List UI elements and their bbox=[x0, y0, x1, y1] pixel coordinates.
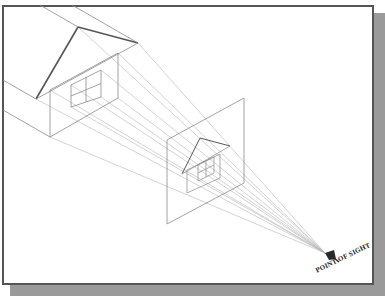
sight-ray bbox=[78, 27, 325, 253]
sight-ray bbox=[50, 90, 325, 253]
sight-ray bbox=[36, 99, 325, 253]
house-side-edge bbox=[3, 80, 36, 99]
roof-left-edge bbox=[36, 27, 78, 99]
sight-ray bbox=[101, 70, 325, 253]
house-side-edge bbox=[3, 110, 50, 137]
sight-rays bbox=[36, 27, 325, 253]
front-wall bbox=[187, 154, 220, 193]
perspective-diagram bbox=[0, 0, 385, 297]
sight-ray bbox=[118, 98, 325, 253]
roof-right-edge bbox=[200, 138, 230, 146]
roof-eave bbox=[36, 43, 138, 99]
sight-ray bbox=[118, 53, 325, 253]
house-side-edge bbox=[40, 5, 78, 27]
sight-ray bbox=[50, 137, 325, 253]
house-side-edge bbox=[72, 5, 138, 43]
sight-ray bbox=[101, 97, 325, 253]
